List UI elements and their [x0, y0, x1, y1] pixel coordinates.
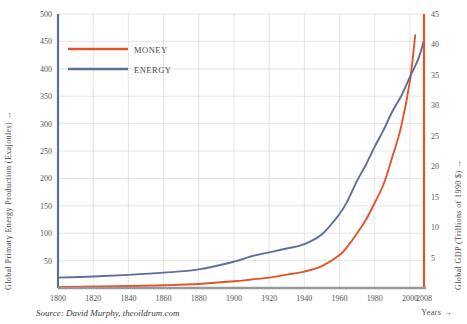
- y-tick-label-right: 15: [431, 193, 439, 202]
- y-tick-label-right: 5: [431, 254, 435, 263]
- x-tick-label: 1900: [226, 294, 242, 303]
- legend-label-energy: ENERGY: [134, 65, 171, 75]
- y-tick-label-right: 35: [431, 71, 439, 80]
- x-tick-label: 1940: [296, 294, 312, 303]
- y-tick-label-left: 500: [40, 10, 52, 19]
- energy-gdp-chart: 1800182018401860188019001920194019601980…: [0, 0, 467, 324]
- y-tick-label-right: 25: [431, 132, 439, 141]
- y-tick-label-left: 300: [40, 120, 52, 129]
- y-tick-label-right: 45: [431, 10, 439, 19]
- y-tick-label-right: 10: [431, 223, 439, 232]
- legend-label-money: MONEY: [134, 45, 168, 55]
- y-tick-label-right: 20: [431, 162, 439, 171]
- y-axis-left-title: Global Primary Energy Production (Exajou…: [4, 111, 13, 290]
- y-axis-right-tick-labels: 51015202530354045: [431, 10, 439, 263]
- x-tick-label: 1960: [332, 294, 348, 303]
- x-tick-label: 1920: [261, 294, 277, 303]
- y-tick-label-left: 250: [40, 147, 52, 156]
- y-tick-label-left: 450: [40, 37, 52, 46]
- y-tick-label-left: 200: [40, 174, 52, 183]
- x-tick-label: 1860: [156, 294, 172, 303]
- x-tick-label: 1880: [191, 294, 207, 303]
- source-caption: Source: David Murphy, theoildrum.com: [36, 308, 180, 318]
- y-tick-label-left: 100: [40, 229, 52, 238]
- y-tick-label-right: 30: [431, 101, 439, 110]
- x-axis-title: Years →: [421, 308, 452, 317]
- y-axis-right-title: Global GDP (Trillions of 1990 $) →: [454, 160, 463, 290]
- y-tick-label-left: 150: [40, 202, 52, 211]
- y-tick-label-left: 400: [40, 65, 52, 74]
- x-tick-label: 1820: [85, 294, 101, 303]
- x-tick-label: 2008: [416, 294, 432, 303]
- x-tick-label: 1800: [50, 294, 66, 303]
- y-tick-label-right: 40: [431, 40, 439, 49]
- x-tick-label: 1980: [367, 294, 383, 303]
- y-tick-label-left: 350: [40, 92, 52, 101]
- y-tick-label-left: 50: [44, 257, 52, 266]
- x-tick-label: 1840: [120, 294, 136, 303]
